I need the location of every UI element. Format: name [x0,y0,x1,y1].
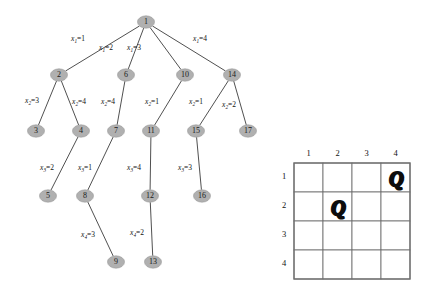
board-cell-r3-c3[interactable] [352,221,381,250]
node-label: 2 [57,70,61,79]
tree-node-12[interactable]: 12 [142,190,159,202]
node-label: 8 [83,191,87,200]
edge-label-e16: x4=2 [129,228,144,238]
tree-node-3[interactable]: 3 [28,125,45,137]
tree-node-2[interactable]: 2 [51,69,68,81]
board-column-header-4: 4 [393,148,398,158]
board-cell-r4-c2[interactable] [323,250,352,279]
edge-label-e7: x2=4 [100,97,115,107]
tree-edge-n12-n13 [150,202,152,256]
board-cell-r3-c1[interactable] [294,221,323,250]
node-label: 6 [124,70,128,79]
tree-node-4[interactable]: 4 [73,125,90,137]
node-label: 14 [228,70,236,79]
tree-edge-n6-n7 [117,81,125,125]
node-label: 1 [144,17,148,26]
node-label: 13 [149,257,157,266]
board-cell-r1-c2[interactable] [323,163,352,192]
node-label: 9 [114,257,118,266]
edge-label-e14: x3=3 [177,163,192,173]
tree-edges-layer [38,26,246,256]
board-row-header-2: 2 [282,200,286,210]
tree-node-8[interactable]: 8 [77,190,94,202]
tree-node-10[interactable]: 10 [177,69,194,81]
board-column-header-2: 2 [335,148,339,158]
edge-label-e13: x3=4 [126,163,141,173]
edge-label-e8: x2=1 [144,97,159,107]
node-label: 16 [198,191,206,200]
node-label: 12 [146,191,154,200]
board-cell-r3-c2[interactable] [323,221,352,250]
edge-label-e2: x1=2 [98,43,113,53]
edge-label-e4: x1=4 [192,34,207,44]
edge-label-e10: x2=2 [221,100,236,110]
tree-node-17[interactable]: 17 [240,125,257,137]
chessboard-layer: 12341234QQ [282,148,410,279]
node-label: 11 [147,126,155,135]
figure-canvas: 1261014347111517581216913 x1=1x1=2x1=3x1… [0,0,426,296]
board-cell-r2-c3[interactable] [352,192,381,221]
board-cell-r1-c3[interactable] [352,163,381,192]
tree-edge-n11-n12 [150,137,151,190]
edge-label-e9: x2=1 [188,97,203,107]
node-label: 7 [114,126,118,135]
tree-node-14[interactable]: 14 [224,69,241,81]
board-row-header-3: 3 [282,229,286,239]
edge-label-e3: x1=3 [126,43,141,53]
edge-label-e11: x3=2 [39,163,54,173]
board-cell-r4-c3[interactable] [352,250,381,279]
board-cell-r3-c4[interactable] [381,221,410,250]
board-cell-r4-c4[interactable] [381,250,410,279]
queen-piece-r2-c2[interactable]: Q [331,197,345,219]
tree-edge-n2-n3 [38,81,56,125]
tree-edge-n1-n14 [152,26,225,71]
tree-edge-n4-n5 [51,137,78,190]
tree-node-6[interactable]: 6 [118,69,135,81]
board-row-header-4: 4 [282,258,287,268]
board-cell-r2-c1[interactable] [294,192,323,221]
tree-node-5[interactable]: 5 [40,190,57,202]
edge-label-e5: x2=3 [24,96,39,106]
tree-node-7[interactable]: 7 [108,125,125,137]
board-column-header-3: 3 [364,148,368,158]
tree-node-13[interactable]: 13 [145,256,162,268]
tree-edge-n15-n16 [197,137,202,190]
board-cell-r1-c1[interactable] [294,163,323,192]
node-label: 17 [244,126,252,135]
node-label: 4 [79,126,83,135]
tree-node-11[interactable]: 11 [143,125,160,137]
tree-node-15[interactable]: 15 [188,125,205,137]
board-cell-r4-c1[interactable] [294,250,323,279]
edge-label-e1: x1=1 [70,34,85,44]
node-label: 15 [192,126,200,135]
board-row-header-1: 1 [282,171,286,181]
queen-piece-r1-c4[interactable]: Q [389,168,403,190]
node-label: 3 [34,126,38,135]
board-cell-r2-c4[interactable] [381,192,410,221]
node-label: 10 [181,70,189,79]
board-column-header-1: 1 [306,148,310,158]
tree-node-1[interactable]: 1 [138,16,155,28]
node-label: 5 [46,191,50,200]
tree-node-16[interactable]: 16 [194,190,211,202]
edge-label-e12: x3=1 [77,163,92,173]
edge-label-e15: x4=3 [80,230,95,240]
edge-label-e6: x2=4 [71,97,86,107]
tree-node-9[interactable]: 9 [108,256,125,268]
tree-edge-n8-n9 [88,202,113,256]
